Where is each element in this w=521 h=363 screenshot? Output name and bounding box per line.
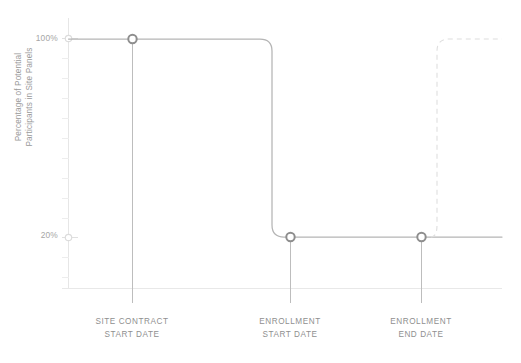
y-tick-label-100: 100% [18, 33, 58, 43]
y-axis-minor-ticks [62, 59, 69, 278]
step-line-chart: Percentage of Potential Participants in … [0, 0, 521, 363]
data-point-enrollment-start[interactable] [286, 233, 294, 241]
series-line-dashed-projection [431, 39, 502, 237]
chart-canvas [0, 0, 521, 363]
data-point-markers [128, 35, 425, 241]
event-drop-lines [133, 39, 422, 303]
y-tick-label-20: 20% [18, 230, 58, 240]
x-tick-label-enrollment-end: ENROLLMENT END DATE [341, 316, 501, 341]
x-axis-ticks [133, 288, 422, 296]
x-tick-label-site-contract-start: SITE CONTRACT START DATE [52, 316, 212, 341]
data-point-enrollment-end[interactable] [417, 233, 425, 241]
y-axis-marker-20 [65, 234, 71, 240]
data-point-site-contract-start[interactable] [128, 35, 136, 43]
